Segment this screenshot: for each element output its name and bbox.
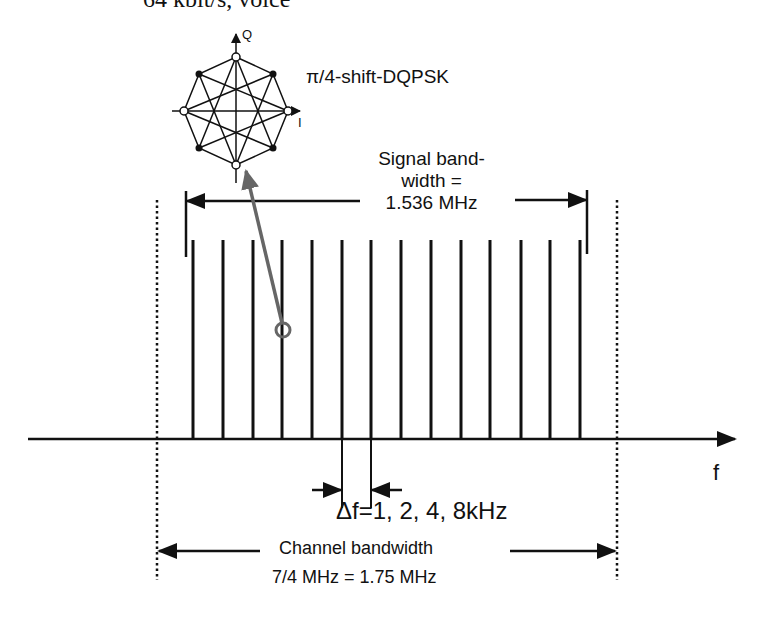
i-axis-label: I [298, 115, 302, 130]
signal-bandwidth-line3: 1.536 MHz [364, 192, 499, 214]
signal-bandwidth-label: Signal band- width = 1.536 MHz [364, 148, 499, 214]
diagram-title: 64 kbit/s, voice [143, 0, 290, 13]
signal-bandwidth-line2: width = [364, 170, 499, 192]
frequency-axis-label: f [713, 460, 719, 486]
subcarriers [193, 240, 580, 439]
channel-bandwidth-value: 7/4 MHz = 1.75 MHz [272, 567, 437, 588]
subcarrier-spacing-label: Δf=1, 2, 4, 8kHz [336, 497, 507, 525]
q-axis-label: Q [242, 27, 252, 42]
constellation-diagram [172, 34, 300, 183]
channel-bandwidth-label: Channel bandwidth [279, 538, 433, 559]
modulation-label: π/4-shift-DQPSK [306, 66, 449, 88]
signal-bandwidth-line1: Signal band- [364, 148, 499, 170]
